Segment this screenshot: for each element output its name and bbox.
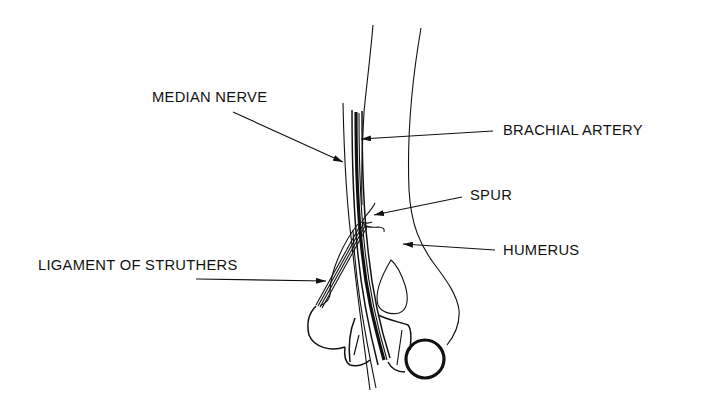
- capitulum: [406, 340, 444, 378]
- arm-drawing: [0, 0, 715, 407]
- spur-tip: [361, 222, 372, 223]
- distal-humerus-line: [397, 330, 402, 365]
- leader-spur: [374, 197, 462, 215]
- humerus-right-outline: [409, 28, 460, 345]
- label-spur: SPUR: [470, 186, 512, 204]
- leader-humerus: [403, 244, 495, 250]
- leader-brachial-artery: [361, 131, 493, 139]
- label-ligament-of-struthers: LIGAMENT OF STRUTHERS: [38, 256, 238, 274]
- leader-ligament: [196, 279, 326, 281]
- leader-median-nerve: [233, 112, 343, 162]
- label-median-nerve: MEDIAN NERVE: [152, 88, 267, 106]
- brachial-artery-wall-2: [362, 111, 390, 358]
- arm-outline-left: [364, 25, 373, 112]
- olecranon-fossa: [377, 260, 407, 314]
- distal-humerus-bottom: [388, 362, 405, 372]
- medial-epicondyle-lower: [345, 347, 370, 366]
- trochlea-line: [354, 335, 359, 355]
- anatomy-diagram: MEDIAN NERVE BRACHIAL ARTERY SPUR HUMERU…: [0, 0, 715, 407]
- label-brachial-artery: BRACHIAL ARTERY: [503, 121, 643, 139]
- medial-epicondyle: [308, 306, 345, 349]
- trochlea-edge: [349, 318, 355, 362]
- label-humerus: HUMERUS: [503, 241, 579, 259]
